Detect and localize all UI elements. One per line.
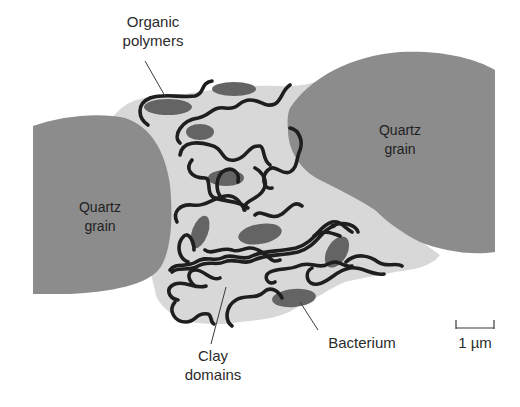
label-organic-polymers-line2: polymers	[108, 31, 198, 50]
label-quartz-left-line2: grain	[60, 217, 140, 236]
bacterium-3	[186, 124, 214, 140]
leader-organic-polymers	[145, 61, 165, 96]
bacterium-1	[144, 99, 192, 115]
label-quartz-right-line2: grain	[360, 140, 440, 159]
label-clay-domains-line1: Clay	[168, 346, 258, 365]
label-organic-polymers: Organic polymers	[108, 12, 198, 50]
label-organic-polymers-line1: Organic	[108, 12, 198, 31]
label-clay-domains-line2: domains	[168, 365, 258, 384]
leader-bacterium	[300, 302, 318, 330]
bacterium-2	[212, 82, 256, 96]
label-quartz-grain-left: Quartz grain	[60, 198, 140, 236]
scale-bar	[456, 320, 494, 329]
label-quartz-left-line1: Quartz	[60, 198, 140, 217]
label-clay-domains: Clay domains	[168, 346, 258, 384]
label-scale-bar: 1 µm	[450, 333, 500, 352]
label-quartz-right-line1: Quartz	[360, 121, 440, 140]
label-quartz-grain-right: Quartz grain	[360, 121, 440, 159]
label-bacterium: Bacterium	[314, 333, 410, 352]
